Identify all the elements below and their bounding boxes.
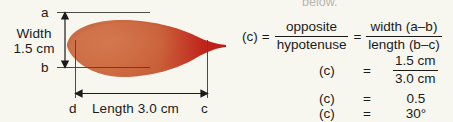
equation-row-angle: (c) = 30° xyxy=(319,106,439,121)
equation-row4-lhs: (c) xyxy=(319,106,345,121)
equation-row4-result: 30° xyxy=(393,106,439,121)
fraction1-numerator: opposite xyxy=(284,20,339,35)
vertex-label-d: d xyxy=(69,101,77,116)
width-label-line2: 1.5 cm xyxy=(5,41,63,56)
length-dimension-arrow xyxy=(76,90,208,96)
width-label-line1: Width xyxy=(5,26,63,41)
fraction2-numerator: width (a–b) xyxy=(369,20,440,35)
fraction3-numerator: 1.5 cm xyxy=(393,54,438,69)
fraction3-denominator: 3.0 cm xyxy=(393,72,438,87)
formula-panel: below. (c) = opposite hypotenuse = width… xyxy=(226,0,453,122)
equation-row2-equals: = xyxy=(363,63,393,78)
equation-row1-equals2: = xyxy=(353,29,361,44)
leaf-measurement-diagram: a b d c Width 1.5 cm Length 3.0 cm xyxy=(0,0,226,122)
equation-row-ratio: (c) = 0.5 xyxy=(319,91,439,106)
cutoff-caption-text: below. xyxy=(302,0,337,9)
equation-row1-lhs: (c) xyxy=(242,29,258,44)
vertex-label-a: a xyxy=(41,5,49,20)
fraction2-denominator: length (b–c) xyxy=(366,38,441,53)
fraction1-denominator: hypotenuse xyxy=(275,38,349,53)
equation-row1-equals: = xyxy=(262,29,270,44)
fraction-width-over-length: width (a–b) length (b–c) xyxy=(366,20,441,53)
equation-row2-lhs: (c) xyxy=(319,63,345,78)
equation-row3-lhs: (c) xyxy=(319,91,345,106)
leaf-shape xyxy=(67,20,226,77)
equation-row4-equals: = xyxy=(363,106,393,121)
fraction-opposite-over-hypotenuse: opposite hypotenuse xyxy=(275,20,349,53)
equation-row3-result: 0.5 xyxy=(393,91,439,106)
figure-root: a b d c Width 1.5 cm Length 3.0 cm below… xyxy=(0,0,453,122)
length-measurement-label: Length 3.0 cm xyxy=(92,101,179,116)
vertex-label-b: b xyxy=(41,60,49,75)
equation-row3-equals: = xyxy=(363,91,393,106)
fraction-measurements: 1.5 cm 3.0 cm xyxy=(393,54,438,87)
vertex-label-c: c xyxy=(201,101,208,116)
width-measurement-label: Width 1.5 cm xyxy=(5,26,63,56)
equation-row-definition: (c) = opposite hypotenuse = width (a–b) … xyxy=(242,20,442,53)
equation-row-substitution: (c) = 1.5 cm 3.0 cm xyxy=(319,54,438,87)
